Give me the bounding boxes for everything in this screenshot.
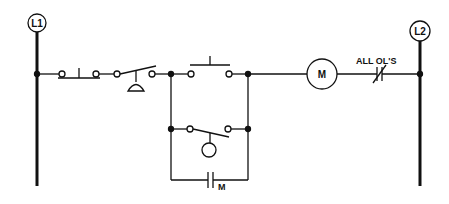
holding-contact-label: M xyxy=(218,182,226,192)
l1-rail xyxy=(28,14,46,186)
motor-coil-label: M xyxy=(318,69,326,80)
overload-label: ALL OL'S xyxy=(356,56,396,66)
holding-contact-icon xyxy=(171,172,248,188)
stop-pushbutton-icon xyxy=(58,68,100,78)
foot-switch-icon xyxy=(114,66,156,91)
l2-rail xyxy=(410,21,430,186)
start-pushbutton-icon xyxy=(171,56,248,77)
l1-label: L1 xyxy=(31,18,43,29)
l2-label: L2 xyxy=(414,26,426,37)
ladder-diagram: L1 L2 M ALL OL'S M xyxy=(0,0,449,204)
float-switch-icon xyxy=(171,126,248,157)
overload-contact-icon xyxy=(373,65,420,83)
